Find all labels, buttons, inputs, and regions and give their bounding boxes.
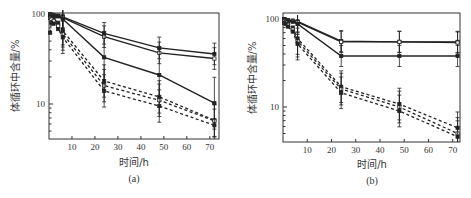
panel-b: 10203040506070 100 10 时间/h (b) 体循环中含量/% [246,13,460,187]
data-point-marker [213,57,216,60]
data-point-marker [158,73,161,76]
panel-caption-a: (a) [128,173,139,185]
series-line-dashed-1 [50,16,214,120]
series-group-b [283,15,460,142]
y-tick-10-b: 10 [270,102,280,112]
data-point-marker [291,20,294,23]
data-point-marker [340,54,343,57]
data-point-marker [398,40,401,43]
series-line-solid-3 [50,15,214,103]
series-line-dashed-2 [50,18,214,121]
data-point-marker [398,54,401,57]
x-tick-label: 30 [113,142,123,152]
series-line-solid-1 [284,19,457,42]
x-tick-label: 40 [136,142,146,152]
figure: 10203040506070 100 10 时间/h (a) 体循环中含量/% … [0,0,471,198]
data-point-marker [456,41,459,44]
y-axis-ticks-b [283,19,287,133]
data-point-marker [286,25,289,28]
data-point-marker [456,135,459,138]
x-axis-title-b: 时间/h [357,158,387,170]
x-axis-ticks-a: 10203040506070 [67,136,214,152]
x-tick-label: 60 [424,145,434,155]
y-tick-100-a: 100 [32,9,46,19]
series-line-dashed-1 [284,19,457,128]
data-point-marker [340,40,343,43]
data-point-marker [52,22,55,25]
plot-frame-a [49,13,219,139]
data-point-marker [340,91,343,94]
data-point-marker [456,54,459,57]
x-tick-label: 20 [327,145,337,155]
data-point-marker [103,56,106,59]
panel-caption-b: (b) [366,175,378,187]
data-point-marker [57,27,60,30]
x-tick-label: 30 [351,145,361,155]
series-line-dashed-3 [284,23,457,137]
x-tick-label: 50 [159,142,169,152]
x-axis-title-a: 时间/h [119,156,149,168]
x-tick-label: 50 [400,145,410,155]
series-group-a [49,10,217,139]
x-tick-label: 40 [375,145,385,155]
y-axis-title-a: 体循环中含量/% [9,40,21,113]
series-line-solid-3 [284,20,457,56]
x-axis-ticks-b: 10203040506070 [303,139,458,155]
data-point-marker [291,30,294,33]
data-point-marker [57,15,60,18]
data-point-marker [296,42,299,45]
x-tick-label: 70 [448,145,458,155]
x-tick-label: 20 [90,142,100,152]
data-point-marker [158,104,161,107]
x-tick-label: 70 [205,142,215,152]
data-point-marker [61,36,64,39]
y-tick-10-a: 10 [36,99,46,109]
y-tick-100-b: 100 [266,14,280,24]
data-point-marker [213,124,216,127]
x-tick-label: 10 [67,142,77,152]
series-line-dashed-3 [50,23,214,126]
data-point-marker [398,109,401,112]
x-tick-label: 60 [182,142,192,152]
y-axis-title-b: 体循环中含量/% [246,42,258,115]
panel-a: 10203040506070 100 10 时间/h (a) 体循环中含量/% [9,9,219,185]
x-tick-label: 10 [303,145,313,155]
data-point-marker [103,89,106,92]
series-line-solid-2 [284,19,457,42]
